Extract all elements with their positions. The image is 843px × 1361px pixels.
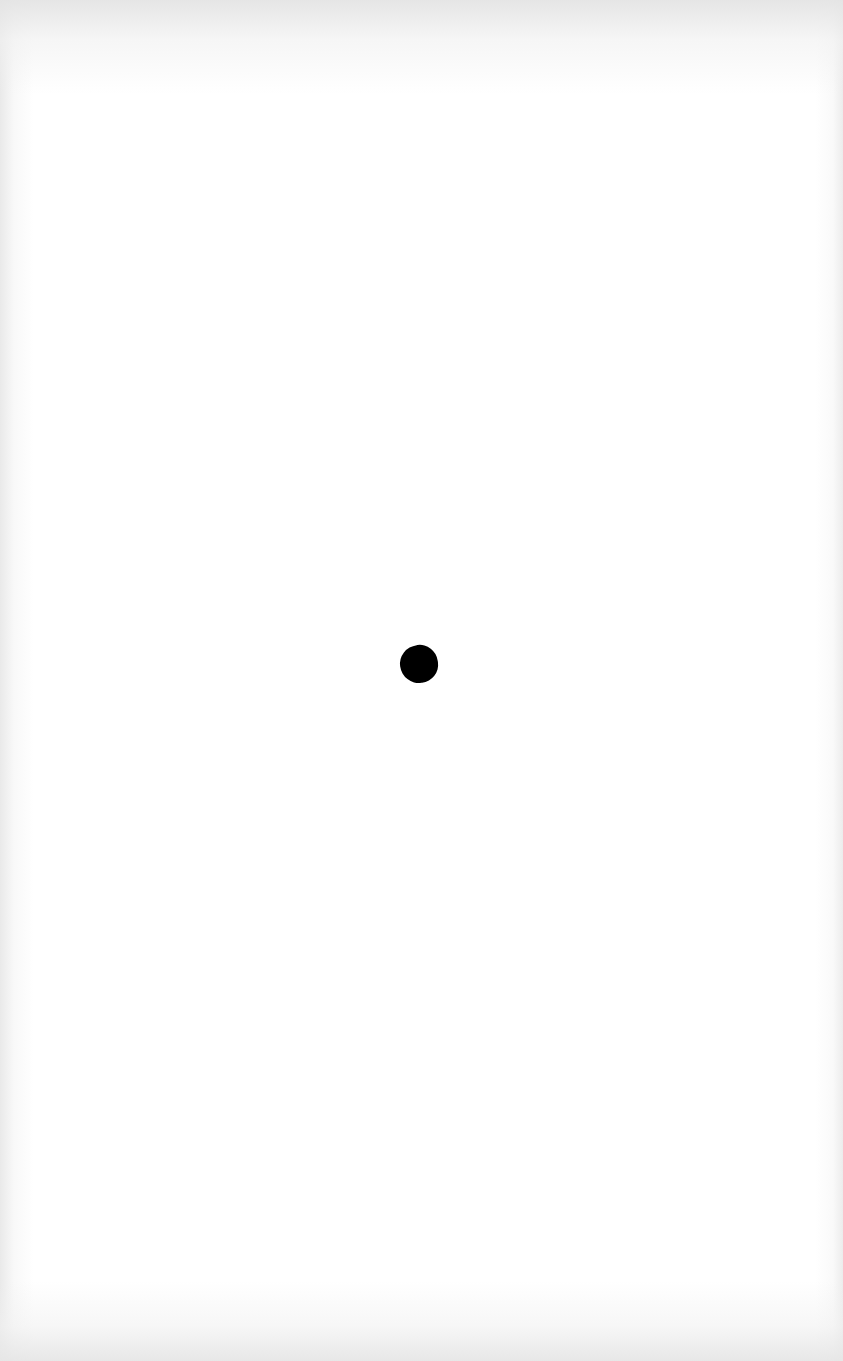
ink-dot xyxy=(398,643,441,686)
blank-document-page xyxy=(0,0,843,1361)
